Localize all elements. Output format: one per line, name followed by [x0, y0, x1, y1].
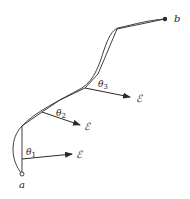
label-field-1: ℰ: [76, 149, 83, 160]
diagram-canvas: a b θ1 θ2 θ3 ℰ ℰ ℰ: [0, 0, 190, 199]
label-field-3: ℰ: [136, 93, 143, 104]
point-b-marker: [163, 17, 167, 21]
label-theta-1: θ1: [26, 147, 36, 159]
polygonal-path: [22, 19, 165, 174]
path-field-diagram: a b θ1 θ2 θ3 ℰ ℰ ℰ: [0, 0, 190, 199]
label-field-2: ℰ: [84, 121, 91, 132]
label-b: b: [174, 13, 180, 24]
label-theta-3: θ3: [98, 79, 108, 91]
point-a-marker: [20, 172, 24, 176]
label-theta-2: θ2: [56, 108, 66, 120]
label-a: a: [19, 179, 25, 190]
